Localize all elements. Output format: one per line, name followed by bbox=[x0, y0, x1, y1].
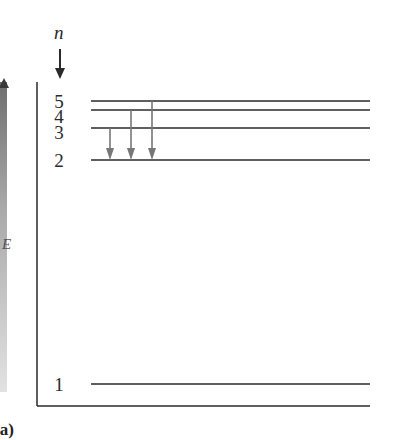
figure-label: (a) bbox=[0, 420, 14, 440]
level-number-n1: 1 bbox=[52, 375, 66, 394]
transition-arrow-3-to-2 bbox=[106, 128, 114, 160]
level-number-n2: 2 bbox=[52, 151, 66, 170]
arrowhead-icon bbox=[106, 148, 114, 160]
arrowhead-icon bbox=[127, 148, 135, 160]
arrowhead-icon bbox=[148, 148, 156, 160]
transition-arrow-4-to-2 bbox=[127, 110, 135, 160]
level-lines bbox=[91, 101, 370, 384]
level-number-n3: 3 bbox=[52, 123, 66, 142]
